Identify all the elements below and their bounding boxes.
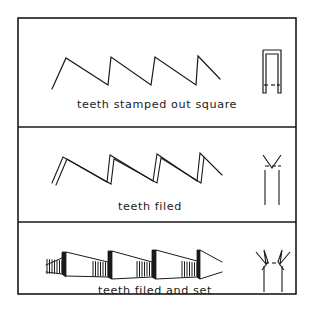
set-tooth-solid-face: [152, 250, 156, 279]
caption-filed-and-set: teeth filed and set: [98, 284, 212, 297]
set-tooth-solid-face: [108, 251, 112, 279]
caption-stamped: teeth stamped out square: [77, 98, 237, 111]
diagram-canvas: teeth stamped out square teeth filed: [0, 0, 314, 312]
caption-filed: teeth filed: [118, 200, 182, 213]
saw-tooth-diagram: teeth stamped out square teeth filed: [0, 0, 314, 312]
set-tooth-solid-face: [62, 252, 66, 277]
set-tooth-solid-face: [197, 250, 200, 279]
